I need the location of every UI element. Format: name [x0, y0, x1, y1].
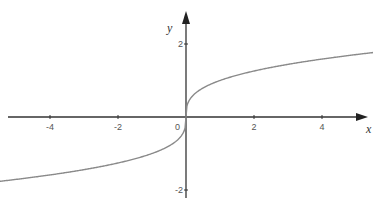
x-axis-label: x: [365, 122, 372, 136]
x-tick-label: -2: [114, 122, 122, 132]
x-tick-label: 2: [251, 122, 256, 132]
cube-root-chart: -4-2024 2-2 x y: [0, 0, 385, 200]
x-tick-label: 4: [319, 122, 324, 132]
y-tick-label: 2: [178, 39, 183, 49]
x-axis-arrow-icon: [356, 113, 368, 121]
y-axis-label: y: [166, 21, 173, 35]
x-tick-label: -4: [46, 122, 54, 132]
y-tick-label: -2: [175, 185, 183, 195]
y-axis-arrow-icon: [182, 11, 190, 24]
x-tick-label: 0: [175, 122, 180, 132]
